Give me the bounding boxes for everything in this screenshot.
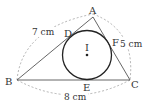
label-c: C (131, 79, 139, 90)
label-f: F (112, 37, 119, 48)
measure-bc: 8 cm (64, 92, 87, 102)
label-d: D (64, 28, 72, 39)
measure-ab: 7 cm (32, 27, 55, 37)
label-i: I (85, 42, 89, 53)
label-a: A (88, 5, 97, 16)
label-b: B (5, 76, 12, 87)
geometry-diagram: A B C D E F I 7 cm 5 cm 8 cm (0, 0, 151, 105)
measure-ac: 5 cm (120, 39, 143, 49)
center-dot-i (86, 54, 89, 57)
